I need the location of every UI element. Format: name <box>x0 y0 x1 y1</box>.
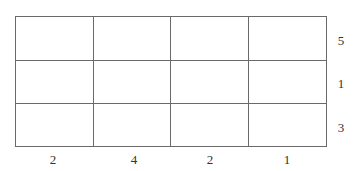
grid-cell-r1-c2 <box>94 17 171 61</box>
column-label-2: 4 <box>124 152 144 168</box>
column-label-3: 2 <box>200 152 220 168</box>
grid <box>15 16 327 147</box>
grid-cell-r3-c1 <box>16 104 94 147</box>
column-label-1: 2 <box>43 152 63 168</box>
grid-cell-r3-c4 <box>249 104 327 147</box>
grid-cell-r3-c3 <box>171 104 249 147</box>
grid-cell-r2-c3 <box>171 61 249 104</box>
grid-cell-r1-c1 <box>16 17 94 61</box>
grid-cell-r1-c3 <box>171 17 249 61</box>
grid-cell-r2-c2 <box>94 61 171 104</box>
row-label-2: 1 <box>334 76 348 92</box>
grid-cell-r3-c2 <box>94 104 171 147</box>
grid-cell-r1-c4 <box>249 17 327 61</box>
grid-cell-r2-c1 <box>16 61 94 104</box>
row-label-3: 3 <box>334 120 348 136</box>
grid-cell-r2-c4 <box>249 61 327 104</box>
row-label-1: 5 <box>334 33 348 49</box>
column-label-4: 1 <box>277 152 297 168</box>
